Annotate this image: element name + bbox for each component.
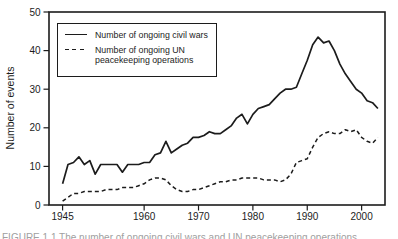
x-tick-label: 1960 xyxy=(133,211,156,222)
legend: Number of ongoing civil wars Number of o… xyxy=(57,23,217,77)
legend-label-peacekeeping-line2: peacekeeping operations xyxy=(95,55,193,66)
legend-item-civil-wars: Number of ongoing civil wars xyxy=(65,30,211,41)
dashed-line-icon xyxy=(65,49,87,51)
x-tick-label: 2000 xyxy=(350,211,373,222)
x-tick-label: 1990 xyxy=(296,211,319,222)
caption-fragment: FIGURE 1.1 The number of ongoing civil w… xyxy=(2,233,398,239)
y-tick-label: 20 xyxy=(29,122,41,133)
y-tick-label: 10 xyxy=(29,161,41,172)
chart-figure: 01020304050194519601970198019902000 Numb… xyxy=(0,0,398,239)
legend-label-peacekeeping-line1: Number of ongoing UN xyxy=(95,45,193,56)
legend-label-civil-wars: Number of ongoing civil wars xyxy=(95,30,208,41)
legend-item-peacekeeping: Number of ongoing UN peacekeeping operat… xyxy=(65,45,211,66)
y-tick-label: 0 xyxy=(35,200,41,211)
y-tick-label: 50 xyxy=(29,7,41,18)
solid-line-icon xyxy=(65,34,87,35)
legend-label-peacekeeping: Number of ongoing UN peacekeeping operat… xyxy=(95,45,193,66)
x-tick-label: 1980 xyxy=(242,211,265,222)
series-line-peacekeeping xyxy=(63,130,378,201)
y-tick-label: 30 xyxy=(29,84,41,95)
x-tick-label: 1970 xyxy=(187,211,210,222)
y-axis-title: Number of events xyxy=(4,67,16,150)
y-tick-label: 40 xyxy=(29,45,41,56)
x-tick-label: 1945 xyxy=(51,211,74,222)
